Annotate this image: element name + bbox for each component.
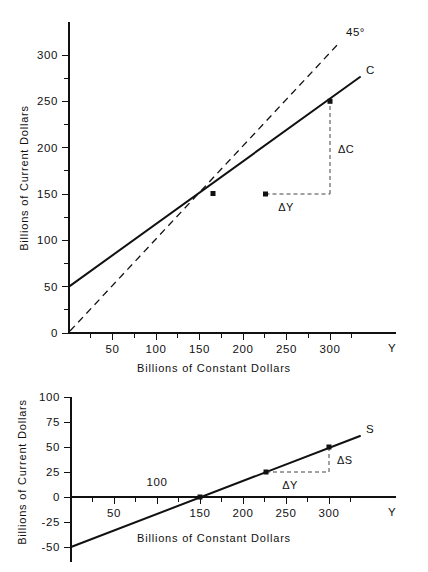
x-axis-minor-ticks-bottom [93,497,351,502]
x-axis-name-top: Y [388,342,396,354]
saving-function-chart: 100 75 50 25 0 -25 -50 [0,360,428,572]
y-tick-label-b-0: 0 [53,491,60,503]
data-point-225-200 [263,192,268,197]
y-axis-major-ticks-bottom [64,397,71,547]
consumption-line [69,77,360,287]
x-tick-label-b-300: 300 [319,507,340,519]
consumption-chart-svg: 0 50 100 150 200 250 300 [0,0,428,360]
x-tick-label-300: 300 [320,343,341,355]
delta-c-label: ΔC [338,143,354,155]
forty-five-degree-line [70,42,340,331]
y-tick-label-250: 250 [37,95,58,107]
saving-chart-svg: 100 75 50 25 0 -25 -50 [0,360,428,572]
x-tick-label-b-200: 200 [233,507,254,519]
data-point-300-250 [328,99,333,104]
y-tick-label-b-50: 50 [46,441,60,453]
y-axis-title-top: Billions of Current Dollars [18,105,30,251]
y-axis-title-bottom: Billions of Current Dollars [16,399,28,545]
x-tick-label-b-150: 150 [190,507,211,519]
y-tick-label-b-25: 25 [46,466,60,478]
x-tick-label-50: 50 [106,343,120,355]
y-tick-label-b-100: 100 [39,391,60,403]
delta-y-label-top: ΔY [278,201,294,213]
y-tick-label-100: 100 [37,234,58,246]
x-tick-label-b-250: 250 [276,507,297,519]
delta-s-label: ΔS [337,454,353,466]
bottom-chart-top-title: Billions of Constant Dollars [137,362,291,374]
forty-five-degree-label: 45° [346,26,365,38]
x-tick-label-200: 200 [233,343,254,355]
x-tick-label-150: 150 [189,343,210,355]
delta-y-label-bottom: ΔY [282,479,298,491]
figure-root: 0 50 100 150 200 250 300 [0,0,428,572]
saving-line-label: S [366,423,374,435]
y-tick-label-50: 50 [44,281,58,293]
x-tick-label-b-50: 50 [107,507,121,519]
x-tick-label-100: 100 [146,343,167,355]
data-point-b-150-0 [198,495,203,500]
y-axis-major-ticks-top [62,55,69,333]
saving-line [71,436,360,547]
y-tick-label-150: 150 [37,188,58,200]
x-axis-title-bottom: Billions of Constant Dollars [137,532,291,544]
y-tick-label-0: 0 [51,327,58,339]
data-point-150-150 [211,191,216,196]
x-tick-label-250: 250 [276,343,297,355]
x-axis-minor-ticks-top [91,333,352,338]
x-tick-label-b-100-floating: 100 [147,476,168,488]
x-axis-name-bottom: Y [388,506,396,518]
y-tick-label-b-75: 75 [46,416,60,428]
consumption-line-label: C [366,64,375,76]
consumption-function-chart: 0 50 100 150 200 250 300 [0,0,428,360]
data-point-b-300-50 [327,445,332,450]
y-tick-label-b-neg50: -50 [42,541,60,553]
y-tick-label-200: 200 [37,142,58,154]
y-tick-label-b-neg25: -25 [42,516,60,528]
y-tick-label-300: 300 [37,49,58,61]
data-point-b-225-25 [264,470,269,475]
